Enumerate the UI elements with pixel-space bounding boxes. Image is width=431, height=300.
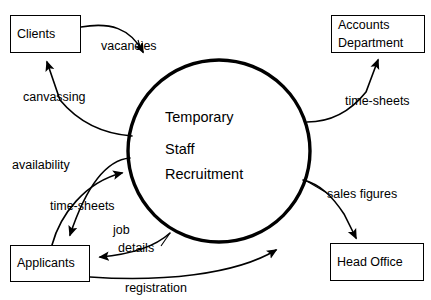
entity-label-applicants-line1: Applicants: [17, 254, 75, 272]
leader-sales-figures: [305, 180, 327, 193]
data-flow-diagram: Clients Accounts Department Applicants H…: [0, 0, 431, 300]
entity-label-clients-line1: Clients: [17, 25, 55, 43]
entity-box-accounts-department[interactable]: Accounts Department: [331, 15, 425, 53]
flow-label-availability: availability: [12, 159, 70, 172]
flow-label-vacancies: vacancies: [101, 40, 157, 53]
entity-box-head-office[interactable]: Head Office: [330, 243, 424, 281]
flow-line-time-sheets-out: [307, 60, 378, 122]
process-label-line1: Temporary: [165, 110, 234, 125]
process-label-line2: Staff: [165, 142, 195, 157]
flow-label-registration: registration: [125, 282, 187, 295]
entity-label-head-office-line1: Head Office: [337, 253, 403, 271]
entity-box-applicants[interactable]: Applicants: [10, 245, 90, 282]
flow-label-details: details: [118, 242, 154, 255]
flow-label-time-sheets-in: time-sheets: [50, 200, 115, 213]
entity-label-accounts-line2: Department: [338, 34, 403, 52]
entity-label-accounts-line1: Accounts: [338, 16, 389, 34]
flow-label-canvassing: canvassing: [23, 91, 86, 104]
entity-box-clients[interactable]: Clients: [10, 15, 81, 53]
flow-label-job: job: [113, 224, 130, 237]
process-label-line3: Recruitment: [165, 167, 243, 182]
flow-label-sales-figures: sales figures: [327, 188, 397, 201]
process-circle: [128, 60, 310, 242]
flow-label-time-sheets-out: time-sheets: [345, 95, 410, 108]
